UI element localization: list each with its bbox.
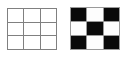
empty-grid-cell-r2c1 (8, 23, 23, 36)
checker-grid-cell-r1c3 (104, 8, 119, 21)
checker-grid-cell-r2c3 (104, 22, 119, 35)
empty-grid-cell-r1c2 (24, 9, 39, 22)
empty-grid-cell-r3c3 (41, 36, 56, 49)
checker-grid-panel (70, 7, 120, 50)
checker-grid-cell-r1c1 (71, 8, 86, 21)
checker-grid-cell-r3c2 (87, 36, 102, 49)
checker-grid-cell-r1c2 (87, 8, 102, 21)
empty-grid-cell-r3c1 (8, 36, 23, 49)
empty-grid-cell-r2c3 (41, 23, 56, 36)
checker-grid-cell-r3c1 (71, 36, 86, 49)
empty-grid-cell-r1c3 (41, 9, 56, 22)
checker-grid-cell-r3c3 (104, 36, 119, 49)
checker-grid-cell-r2c2 (87, 22, 102, 35)
empty-grid-cell-r3c2 (24, 36, 39, 49)
empty-grid-cell-r2c2 (24, 23, 39, 36)
figure-canvas (0, 0, 126, 57)
checker-grid-cell-r2c1 (71, 22, 86, 35)
empty-grid-cell-r1c1 (8, 9, 23, 22)
empty-grid-panel (7, 8, 57, 50)
